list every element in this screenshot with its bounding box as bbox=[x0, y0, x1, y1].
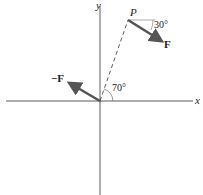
neg-force-arrow bbox=[71, 84, 100, 101]
neg-force-label: −F bbox=[51, 73, 64, 84]
point-label: P bbox=[130, 7, 137, 18]
force-label: F bbox=[164, 39, 171, 50]
angle-label-30: 30° bbox=[154, 20, 168, 30]
x-axis-label: x bbox=[195, 95, 200, 106]
angle-label-70: 70° bbox=[112, 83, 126, 93]
diagram-canvas bbox=[0, 0, 203, 195]
angle-arc-30 bbox=[151, 20, 153, 30]
y-axis-label: y bbox=[96, 0, 101, 11]
